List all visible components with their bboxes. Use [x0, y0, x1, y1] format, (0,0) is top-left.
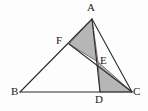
geometry-figure: A B C D E F [0, 0, 148, 111]
vertex-label-a: A [87, 2, 95, 13]
vertex-label-d: D [95, 94, 103, 105]
vertex-label-f: F [56, 35, 62, 46]
vertex-label-c: C [133, 86, 140, 97]
geometry-canvas [0, 0, 148, 111]
vertex-label-e: E [100, 55, 107, 66]
vertex-label-b: B [11, 86, 18, 97]
segment-ab [20, 19, 92, 92]
